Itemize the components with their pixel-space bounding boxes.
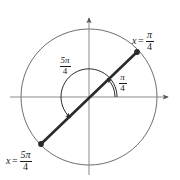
label-pi4-denominator: 4	[146, 42, 153, 53]
label-5pi4-denominator: 4	[22, 162, 29, 173]
label-5pi4-equals: =	[12, 156, 18, 166]
label-pi4-numerator: π	[146, 30, 153, 41]
angle-5pi4-denominator: 4	[62, 67, 69, 77]
label-pi4-variable: x	[132, 36, 136, 46]
angle-5pi4-fraction: 5π 4	[60, 56, 71, 76]
angle-label-pi-over-4: π 4	[118, 73, 127, 93]
angle-5pi4-numerator: 5π	[60, 56, 71, 66]
angle-pi4-denominator: 4	[119, 84, 126, 94]
label-5pi4-fraction: 5π 4	[20, 150, 32, 172]
label-pi4-equals: =	[138, 36, 144, 46]
angle-pi4-numerator: π	[119, 73, 126, 83]
angle-pi4-fraction: π 4	[119, 73, 127, 93]
angle-label-5pi-over-4: 5π 4	[59, 56, 71, 76]
point-5pi-over-4-dot	[38, 141, 44, 147]
arc-pi-over-4	[107, 79, 115, 97]
label-x-equals-pi-over-4: x = π 4	[132, 30, 154, 52]
label-pi4-fraction: π 4	[146, 30, 154, 52]
label-5pi4-numerator: 5π	[20, 150, 32, 161]
label-x-equals-5pi-over-4: x = 5π 4	[6, 150, 32, 172]
label-5pi4-variable: x	[6, 156, 10, 166]
unit-circle-figure: x = π 4 x = 5π 4 5π 4	[0, 0, 180, 180]
